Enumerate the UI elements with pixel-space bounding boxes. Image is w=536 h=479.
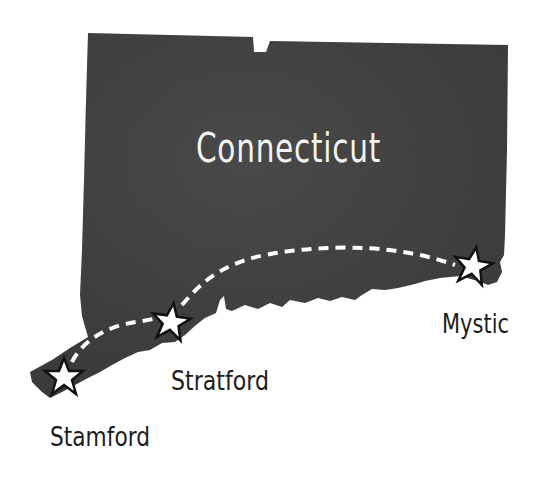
state-shape [30, 33, 508, 398]
city-label-stamford: Stamford [50, 422, 150, 452]
city-label-mystic: Mystic [442, 309, 509, 339]
state-title: Connecticut [196, 125, 381, 171]
city-label-stratford: Stratford [171, 366, 269, 396]
connecticut-map: Connecticut Stamford Stratford Mystic [0, 0, 536, 479]
